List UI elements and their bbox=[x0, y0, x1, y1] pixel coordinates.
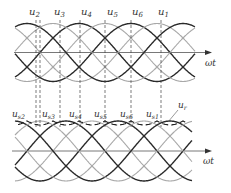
upper-phase-label: u2 bbox=[29, 6, 40, 19]
upper-phase-label: u1 bbox=[158, 6, 169, 19]
lower-phase-label: us2 bbox=[12, 109, 25, 120]
resultant-label: ur bbox=[178, 100, 188, 111]
upper-axis-label: ωt bbox=[205, 58, 216, 68]
lower-axis-arrow-icon bbox=[205, 149, 212, 154]
upper-phase-label: u3 bbox=[54, 6, 65, 19]
waveform-diagram: u2u3u4u5u6u1us2us3us4us5us6us1urωtωt bbox=[0, 0, 231, 193]
upper-phase-label: u4 bbox=[81, 6, 92, 19]
upper-phase-label: u5 bbox=[107, 6, 118, 19]
upper-axis-arrow-icon bbox=[205, 50, 212, 55]
lower-axis-label: ωt bbox=[203, 156, 214, 166]
diagram-canvas: u2u3u4u5u6u1us2us3us4us5us6us1urωtωt bbox=[0, 0, 231, 193]
upper-phase-label: u6 bbox=[132, 6, 143, 19]
lower-phase-label: us1 bbox=[146, 109, 159, 120]
lower-phase-label: us3 bbox=[42, 109, 55, 120]
resultant-leader-line bbox=[168, 110, 178, 122]
